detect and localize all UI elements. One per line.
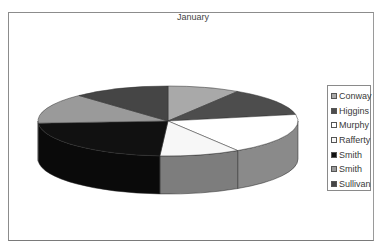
legend-swatch (331, 122, 337, 128)
pie-top (38, 86, 298, 156)
legend-swatch (331, 137, 337, 143)
legend-item: Smith (331, 147, 370, 162)
legend-swatch (331, 108, 337, 114)
legend-item: Sullivan (331, 177, 370, 192)
legend: Conway Higgins Murphy Rafferty Smith Smi… (327, 85, 371, 191)
pie-side-3 (160, 151, 238, 194)
legend-item: Rafferty (331, 133, 370, 148)
legend-item: Smith (331, 162, 370, 177)
legend-item: Higgins (331, 104, 370, 119)
legend-swatch (331, 93, 337, 99)
legend-item: Conway (331, 89, 370, 104)
legend-item: Murphy (331, 118, 370, 133)
legend-swatch (331, 166, 337, 172)
legend-swatch (331, 152, 337, 158)
legend-swatch (331, 181, 337, 187)
